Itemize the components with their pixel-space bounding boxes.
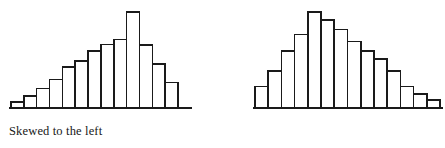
histogram-bar bbox=[400, 86, 413, 108]
histogram-bar bbox=[139, 45, 152, 108]
histogram-bar bbox=[348, 41, 361, 108]
histogram-left bbox=[0, 0, 222, 116]
histogram-bar bbox=[255, 86, 268, 108]
histogram-bar bbox=[268, 71, 281, 108]
histogram-bar bbox=[361, 51, 374, 108]
histogram-bar bbox=[308, 12, 321, 108]
histogram-panel-left: Skewed to the left bbox=[0, 0, 222, 148]
histogram-bar bbox=[101, 44, 114, 108]
histogram-bar bbox=[50, 80, 63, 108]
histogram-bar bbox=[88, 51, 101, 108]
histogram-panel-right: Skewed to the right bbox=[222, 0, 445, 148]
histogram-bar bbox=[114, 39, 127, 108]
histogram-right bbox=[222, 0, 445, 116]
histogram-bar bbox=[334, 30, 347, 108]
histogram-bar bbox=[75, 61, 88, 108]
histogram-bar bbox=[62, 67, 75, 108]
histogram-bar bbox=[165, 83, 178, 108]
histogram-bar bbox=[281, 51, 294, 108]
histogram-bar bbox=[321, 20, 334, 108]
skewness-figure: Skewed to the left Skewed to the right bbox=[0, 0, 445, 148]
histogram-bar bbox=[127, 12, 140, 108]
histogram-bar bbox=[152, 64, 165, 108]
histogram-bar bbox=[387, 71, 400, 108]
histogram-bar bbox=[374, 59, 387, 108]
histogram-bar bbox=[414, 94, 427, 108]
histogram-bar bbox=[24, 96, 37, 108]
caption-skewed-to-the-left: Skewed to the left bbox=[9, 124, 102, 138]
histogram-bar bbox=[427, 100, 440, 108]
histogram-bar bbox=[295, 35, 308, 109]
histogram-bar bbox=[37, 88, 50, 108]
